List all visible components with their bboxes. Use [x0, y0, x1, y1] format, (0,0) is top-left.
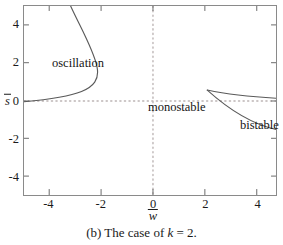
plot-area: oscillation monostable bistable — [23, 5, 277, 196]
curve-oscillation-boundary — [24, 6, 98, 102]
y-tick-marks — [24, 25, 29, 176]
region-label-oscillation: oscillation — [52, 57, 104, 70]
x-tick-label-minus2: -2 — [95, 198, 105, 211]
caption-prefix: (b) The case of — [86, 225, 167, 240]
y-tick-text-2: 2 — [13, 56, 19, 69]
y-axis-label-text: s — [5, 95, 10, 108]
x-tick-marks-top — [49, 6, 257, 11]
x-tick-label-minus4: -4 — [43, 198, 53, 211]
figure-caption: (b) The case of k = 2. — [0, 226, 283, 239]
x-tick-label-4: 4 — [254, 198, 260, 211]
y-tick-text-m4: -4 — [9, 171, 19, 184]
y-tick-text-m2: -2 — [9, 132, 19, 145]
x-axis-label: w — [149, 210, 157, 223]
x-tick-label-2: 2 — [202, 198, 208, 211]
y-tick-text-0: 0 — [13, 95, 19, 108]
region-label-bistable: bistable — [240, 119, 279, 132]
figure-container: oscillation monostable bistable -4 -2 0 … — [0, 0, 283, 245]
x-tick-marks — [49, 189, 257, 195]
curve-bistable-upper — [207, 90, 276, 98]
y-axis-label: s — [5, 95, 10, 108]
x-axis-label-text: w — [149, 210, 157, 223]
region-label-monostable: monostable — [148, 101, 206, 114]
y-tick-marks-right — [271, 25, 276, 176]
y-tick-text-4: 4 — [13, 18, 19, 31]
caption-suffix: = 2. — [173, 225, 197, 240]
